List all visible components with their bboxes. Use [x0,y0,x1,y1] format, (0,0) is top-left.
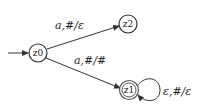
state-label-z1: z1 [124,85,134,95]
transition-z1-self-loop [137,79,160,101]
state-label-z0: z0 [33,48,44,58]
state-z2: z2 [119,15,137,33]
state-z1-accepting: z1 [120,81,139,100]
state-z0: z0 [29,44,47,62]
transition-label-z0-z2: a,#/ε [55,19,84,32]
automaton-diagram: a,#/ε a,#/# ε,#/ε z0 z2 z1 [0,0,204,108]
state-label-z2: z2 [123,19,133,29]
transition-label-z1-z1: ε,#/ε [163,85,191,98]
transition-label-z0-z1: a,#/# [74,54,106,67]
